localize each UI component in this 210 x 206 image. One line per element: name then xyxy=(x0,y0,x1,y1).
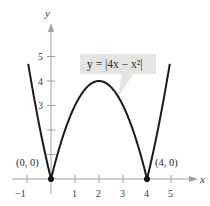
callout-pointer xyxy=(118,73,134,97)
x-tick-label: 2 xyxy=(96,188,101,199)
x-tick-label: 4 xyxy=(144,188,149,199)
x-tick-label: −1 xyxy=(15,188,26,199)
y-tick-label: 3 xyxy=(38,100,43,111)
y-tick-label: 4 xyxy=(38,76,43,87)
equation-label: y = |4x − x²| xyxy=(87,58,143,71)
equation-callout: y = |4x − x²| xyxy=(80,54,156,97)
point-origin xyxy=(48,176,54,182)
y-axis-label: y xyxy=(44,7,50,19)
x-tick-label: 3 xyxy=(120,188,125,199)
y-axis-arrow-icon xyxy=(48,23,54,32)
point-label-origin: (0, 0) xyxy=(16,157,39,169)
point-label-four-zero: (4, 0) xyxy=(155,157,178,169)
point-four-zero xyxy=(144,176,150,182)
x-axis-label: x xyxy=(199,173,205,185)
function-graph: −1 1 2 3 4 5 3 4 5 x y y = |4x − x²| (0,… xyxy=(0,0,210,206)
x-tick-label: 1 xyxy=(72,188,77,199)
x-tick-label: 5 xyxy=(168,188,173,199)
x-axis-arrow-icon xyxy=(189,176,198,182)
y-tick-label: 5 xyxy=(38,51,43,62)
